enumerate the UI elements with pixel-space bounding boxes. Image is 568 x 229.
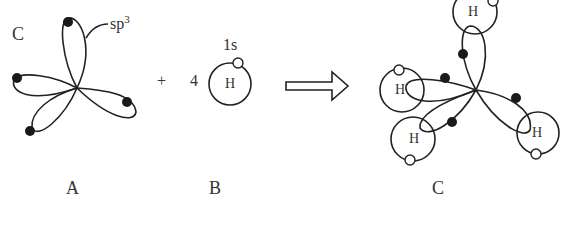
- carbon-label: C: [12, 24, 24, 45]
- hydrogen-electron: [233, 58, 243, 68]
- caption-c: C: [432, 178, 444, 199]
- diagram-canvas: [0, 0, 568, 229]
- sp-superscript: 3: [124, 13, 130, 25]
- hydrogen-label-c-right: H: [532, 125, 542, 141]
- hydrogen-label-c-left: H: [395, 82, 405, 98]
- sp3-label: sp3: [110, 13, 130, 33]
- hydrogen-label-c-top: H: [468, 4, 478, 20]
- 1s-label: 1s: [223, 36, 237, 54]
- sp-text: sp: [110, 15, 124, 32]
- reaction-arrow-icon: [286, 72, 348, 100]
- caption-b: B: [209, 178, 221, 199]
- caption-a: A: [66, 178, 79, 199]
- sp3-leader-line: [86, 24, 108, 38]
- coefficient-four: 4: [190, 72, 198, 90]
- plus-sign: +: [157, 72, 166, 90]
- sp3-lobes-a: [14, 18, 136, 131]
- hydrogen-label-b: H: [225, 76, 235, 92]
- electrons-c-carbon: [440, 49, 521, 127]
- hydrogen-label-c-lower-left: H: [409, 131, 419, 147]
